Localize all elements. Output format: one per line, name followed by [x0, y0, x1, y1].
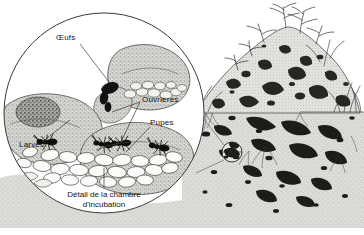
dark-soil-patch: [16, 97, 60, 127]
ant-nest-illustration: Œufs Ouvrières Pupes Larves Détail de la…: [0, 0, 364, 235]
detail-caption-line2: d'incubation: [34, 200, 174, 210]
detail-caption: Détail de la chambre d'incubation: [34, 190, 174, 210]
detail-caption-line1: Détail de la chambre: [34, 190, 174, 200]
label-larvae: Larves: [19, 140, 44, 149]
detail-location-marker: [222, 141, 242, 162]
label-workers: Ouvrières: [142, 95, 178, 104]
incubation-chamber-detail: [2, 13, 204, 213]
label-eggs: Œufs: [56, 33, 75, 42]
label-pupae: Pupes: [150, 118, 174, 127]
